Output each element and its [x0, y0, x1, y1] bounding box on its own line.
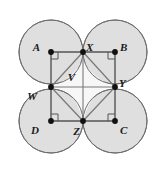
geometry-figure: ABCDXYZWV [0, 0, 159, 179]
vertex-label-a: A [32, 41, 40, 53]
vertex-dot-d [48, 118, 54, 124]
vertex-dot-c [112, 118, 118, 124]
vertex-label-d: D [30, 124, 39, 136]
vertex-dot-y [112, 84, 118, 90]
vertex-label-w: W [27, 90, 38, 102]
vertex-dot-b [112, 49, 118, 55]
figure-canvas: ABCDXYZWV [0, 0, 159, 179]
vertex-label-b: B [119, 41, 127, 53]
vertex-dot-z [80, 118, 86, 124]
vertex-label-x: X [85, 41, 94, 53]
vertex-dot-w [48, 84, 54, 90]
vertex-label-c: C [120, 124, 128, 136]
vertex-dot-a [48, 49, 54, 55]
vertex-label-z: Z [72, 125, 80, 137]
